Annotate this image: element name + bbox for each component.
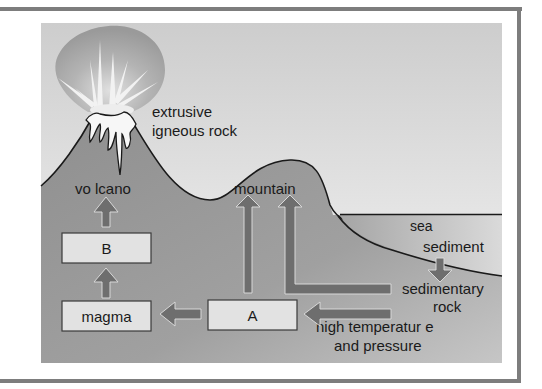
high-temperature-pressure-label: high temperatur e [316, 318, 434, 335]
box-b-label: B [101, 240, 111, 257]
box-magma-label: magma [81, 308, 132, 325]
box-a: A [208, 300, 297, 330]
extrusive-igneous-rock-label: extrusive [152, 103, 212, 120]
box-a-label: A [247, 307, 257, 324]
sedimentary-rock-label: sedimentary [402, 280, 484, 297]
sediment-label: sediment [423, 238, 485, 255]
sedimentary-rock-label-line2: rock [433, 298, 462, 315]
extrusive-igneous-rock-label-line2: igneous rock [152, 122, 238, 139]
volcano-label: vo lcano [75, 180, 131, 197]
box-b: B [62, 233, 151, 263]
sea-label: sea [410, 218, 433, 234]
box-magma: magma [62, 301, 151, 331]
mountain-label: mountain [234, 180, 296, 197]
high-temperature-pressure-label-line2: and pressure [334, 337, 422, 354]
rock-cycle-diagram: extrusive igneous rock vo lcano mountain… [0, 0, 542, 389]
